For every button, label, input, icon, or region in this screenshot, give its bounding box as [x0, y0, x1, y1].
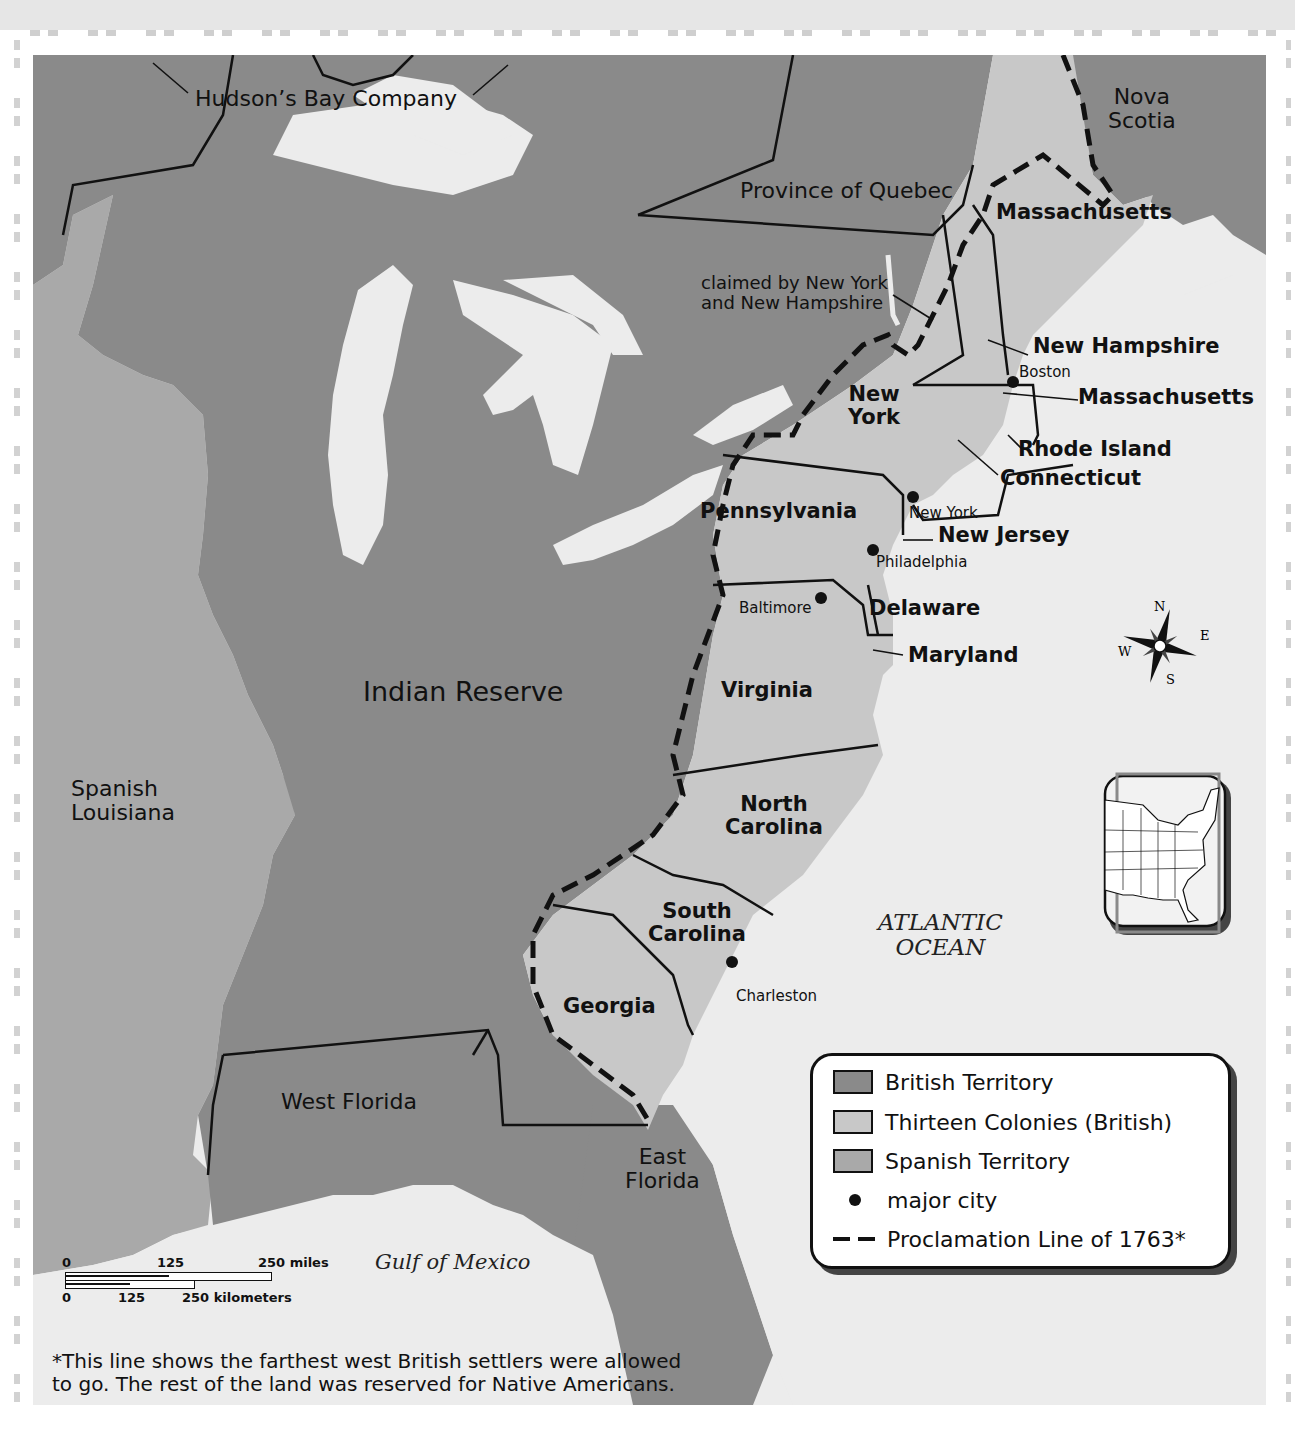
scale-miles-mid: 125	[157, 1255, 184, 1270]
label-delaware: Delaware	[869, 597, 980, 620]
footnote-line2: to go. The rest of the land was reserved…	[52, 1373, 681, 1396]
label-hudsons-bay-company: Hudson’s Bay Company	[195, 87, 457, 111]
label-claimed-line2: and New Hampshire	[701, 293, 888, 313]
label-south-carolina: South Carolina	[648, 900, 746, 946]
footnote-line1: *This line shows the farthest west Briti…	[52, 1350, 681, 1373]
label-spanish-louisiana: Spanish Louisiana	[71, 777, 175, 825]
decorative-border-top	[30, 30, 1295, 36]
legend-item-british-territory: British Territory	[833, 1066, 1054, 1098]
label-atlantic-line2: OCEAN	[878, 935, 1003, 960]
compass-w: W	[1118, 644, 1132, 659]
label-city-boston: Boston	[1019, 364, 1071, 381]
decorative-border-right	[1286, 40, 1291, 1420]
label-city-charleston: Charleston	[736, 988, 817, 1005]
label-city-philadelphia: Philadelphia	[876, 554, 967, 571]
legend-swatch-british	[833, 1070, 873, 1094]
scale-miles-end: 250 miles	[258, 1255, 329, 1270]
scale-miles-zero: 0	[62, 1255, 71, 1270]
label-new-jersey: New Jersey	[938, 524, 1069, 547]
locator-inset-map	[1103, 770, 1233, 935]
label-connecticut: Connecticut	[1000, 467, 1141, 490]
label-rhode-island: Rhode Island	[1018, 438, 1172, 461]
label-georgia: Georgia	[563, 995, 656, 1018]
label-west-florida: West Florida	[281, 1090, 417, 1114]
label-gulf-of-mexico: Gulf of Mexico	[375, 1251, 530, 1274]
legend-item-major-city: major city	[833, 1184, 997, 1216]
new-york-dot	[907, 491, 919, 503]
scale-km-bar	[65, 1280, 195, 1289]
scale-km-zero: 0	[62, 1290, 71, 1305]
label-city-baltimore: Baltimore	[739, 600, 812, 617]
legend-item-spanish-territory: Spanish Territory	[833, 1145, 1070, 1177]
label-east-florida-line1: East	[625, 1145, 700, 1169]
label-city-new-york: New York	[909, 505, 978, 522]
label-massachusetts-maine: Massachusetts	[996, 201, 1172, 224]
label-province-of-quebec: Province of Quebec	[740, 179, 953, 203]
label-south-carolina-line1: South	[648, 900, 746, 923]
label-new-hampshire: New Hampshire	[1033, 335, 1219, 358]
compass-e: E	[1200, 628, 1210, 643]
label-maryland: Maryland	[908, 644, 1018, 667]
label-north-carolina-line2: Carolina	[725, 816, 823, 839]
legend-city-dot-icon	[849, 1194, 861, 1206]
label-claimed-territory: claimed by New York and New Hampshire	[701, 273, 888, 313]
label-north-carolina: North Carolina	[725, 793, 823, 839]
scale-km-mid: 125	[118, 1290, 145, 1305]
compass-n: N	[1154, 599, 1165, 614]
footnote: *This line shows the farthest west Briti…	[52, 1350, 681, 1396]
label-indian-reserve: Indian Reserve	[363, 677, 563, 707]
decorative-border-left	[14, 40, 20, 1420]
label-east-florida: East Florida	[625, 1145, 700, 1193]
legend-swatch-colonies	[833, 1110, 873, 1134]
label-spanish-louisiana-line1: Spanish	[71, 777, 175, 801]
legend-label-city: major city	[887, 1188, 997, 1213]
label-east-florida-line2: Florida	[625, 1169, 700, 1193]
legend-item-thirteen-colonies: Thirteen Colonies (British)	[833, 1106, 1172, 1138]
legend-dashed-line-icon	[833, 1237, 875, 1241]
legend-swatch-spanish	[833, 1149, 873, 1173]
legend-label-colonies: Thirteen Colonies (British)	[885, 1110, 1172, 1135]
label-south-carolina-line2: Carolina	[648, 923, 746, 946]
top-margin	[0, 0, 1295, 30]
label-atlantic-line1: ATLANTIC	[878, 910, 1003, 935]
label-north-carolina-line1: North	[725, 793, 823, 816]
scale-bar: 0 125 250 miles 0 125 250 kilometers	[60, 1255, 340, 1305]
scale-km-end: 250 kilometers	[182, 1290, 292, 1305]
map-legend: British Territory Thirteen Colonies (Bri…	[810, 1053, 1231, 1269]
charleston-dot	[726, 956, 738, 968]
legend-label-spanish: Spanish Territory	[885, 1149, 1070, 1174]
label-claimed-line1: claimed by New York	[701, 273, 888, 293]
label-new-york-line2: York	[848, 406, 900, 429]
label-pennsylvania: Pennsylvania	[700, 500, 857, 523]
label-new-york-line1: New	[848, 383, 900, 406]
label-virginia: Virginia	[721, 679, 813, 702]
boston-dot	[1007, 376, 1019, 388]
label-new-york: New York	[848, 383, 900, 429]
compass-s: S	[1166, 672, 1175, 687]
label-nova-scotia-line1: Nova	[1108, 85, 1176, 109]
label-massachusetts: Massachusetts	[1078, 386, 1254, 409]
baltimore-dot	[815, 592, 827, 604]
label-spanish-louisiana-line2: Louisiana	[71, 801, 175, 825]
label-nova-scotia: Nova Scotia	[1108, 85, 1176, 133]
legend-item-proclamation-line: Proclamation Line of 1763*	[833, 1223, 1186, 1255]
label-nova-scotia-line2: Scotia	[1108, 109, 1176, 133]
legend-label-british: British Territory	[885, 1070, 1054, 1095]
legend-label-proclamation: Proclamation Line of 1763*	[887, 1227, 1186, 1252]
compass-rose-icon: N S E W	[1110, 598, 1210, 688]
label-atlantic-ocean: ATLANTIC OCEAN	[878, 910, 1003, 961]
